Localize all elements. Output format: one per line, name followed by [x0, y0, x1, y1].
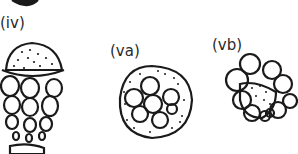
structure-vb	[226, 54, 297, 121]
top-blob	[12, 0, 38, 5]
structure-va	[120, 66, 192, 138]
structure-iv	[1, 43, 64, 154]
diagram-canvas	[0, 0, 298, 154]
